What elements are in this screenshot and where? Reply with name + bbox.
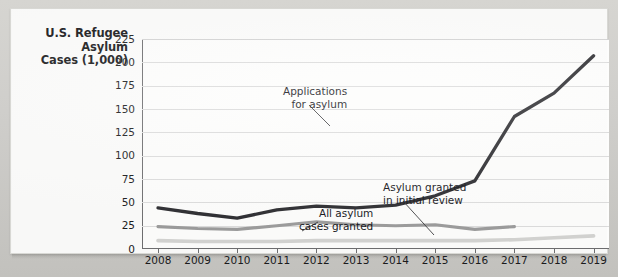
chart-card: U.S. Refugee Asylum Cases (1,000) 025507… [10,8,608,254]
x-tick-label-2018: 2018 [534,254,574,266]
x-tick-mark-2018 [554,249,555,253]
line-asylum-granted-initial-review [158,236,594,242]
annotation-applications-line-2: for asylum [283,98,347,111]
y-tick-label-150: 150 [95,104,135,114]
y-tick-label-175: 175 [95,80,135,90]
y-tick-label-125: 125 [95,127,135,137]
annotation-all-granted-line-2: cases granted [299,220,373,233]
x-tick-mark-2016 [475,249,476,253]
annotation-applications-line-1: Applications [283,85,347,98]
x-tick-label-2012: 2012 [296,254,336,266]
x-tick-label-2009: 2009 [178,254,218,266]
x-tick-mark-2008 [158,249,159,253]
annotation-initial-review-line-1: Asylum granted [383,181,466,194]
x-tick-label-2017: 2017 [494,254,534,266]
x-tick-mark-2011 [277,249,278,253]
series-applications [158,56,594,218]
x-tick-mark-2019 [594,249,595,253]
x-tick-label-2019: 2019 [574,254,614,266]
annotation-initial-review-line-2: in initial review [383,194,466,207]
x-tick-label-2015: 2015 [415,254,455,266]
x-tick-label-2016: 2016 [455,254,495,266]
chart-page: U.S. Refugee Asylum Cases (1,000) 025507… [0,0,618,277]
annotation-applications-for-asylum: Applications for asylum [283,85,347,110]
x-tick-mark-2013 [356,249,357,253]
x-tick-mark-2012 [316,249,317,253]
y-tick-label-75: 75 [95,174,135,184]
plot-area: 0255075100125150175200225 20082009201020… [142,39,609,249]
x-tick-label-2010: 2010 [217,254,257,266]
x-tick-mark-2010 [237,249,238,253]
x-tick-mark-2009 [198,249,199,253]
series-initial-review [158,236,594,242]
series-layer [142,39,609,249]
y-tick-label-0: 0 [95,244,135,254]
x-tick-mark-2015 [435,249,436,253]
annotation-asylum-granted-initial-review: Asylum granted in initial review [383,181,466,206]
y-tick-label-225: 225 [95,34,135,44]
x-tick-label-2008: 2008 [138,254,178,266]
x-tick-mark-2017 [514,249,515,253]
x-tick-label-2011: 2011 [257,254,297,266]
leader-line-initial-review [403,201,434,235]
x-tick-label-2013: 2013 [336,254,376,266]
x-tick-mark-2014 [396,249,397,253]
line-applications-for-asylum [158,56,594,218]
y-tick-label-25: 25 [95,220,135,230]
y-tick-label-200: 200 [95,57,135,67]
y-tick-label-100: 100 [95,150,135,160]
x-tick-label-2014: 2014 [376,254,416,266]
y-tick-label-50: 50 [95,197,135,207]
annotation-all-asylum-cases-granted: All asylum cases granted [299,207,373,232]
annotation-all-granted-line-1: All asylum [299,207,373,220]
